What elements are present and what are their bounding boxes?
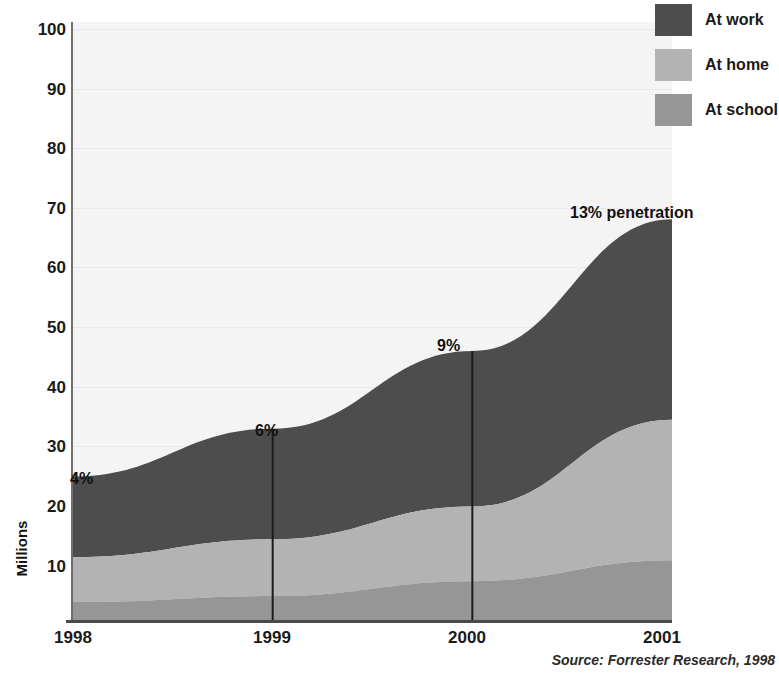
y-tick-100: 100 bbox=[14, 21, 66, 38]
y-tick-70: 70 bbox=[14, 200, 66, 217]
y-tick-30: 30 bbox=[14, 438, 66, 455]
legend-swatch-at-school bbox=[655, 94, 692, 126]
annotation-1999: 6% bbox=[255, 422, 278, 440]
annotation-2000: 9% bbox=[437, 337, 460, 355]
legend-label-at-work: At work bbox=[705, 11, 764, 29]
legend-swatch-at-home bbox=[655, 49, 692, 81]
y-tick-40: 40 bbox=[14, 379, 66, 396]
stacked-area-plot bbox=[73, 22, 672, 620]
x-axis-line bbox=[66, 620, 672, 623]
legend: At work At home At school bbox=[655, 4, 779, 139]
y-axis-tick-labels: 100 90 80 70 60 50 40 30 20 10 bbox=[0, 0, 66, 675]
y-tick-60: 60 bbox=[14, 259, 66, 276]
y-tick-90: 90 bbox=[14, 81, 66, 98]
x-tick-2001: 2001 bbox=[607, 628, 717, 648]
annotation-2001: 13% penetration bbox=[570, 204, 694, 222]
legend-item-at-work: At work bbox=[655, 4, 779, 44]
y-axis-line bbox=[71, 22, 73, 620]
x-tick-1999: 1999 bbox=[217, 628, 327, 648]
annotation-1998: 4% bbox=[70, 470, 93, 488]
y-axis-title: Millions bbox=[13, 509, 30, 589]
y-tick-50: 50 bbox=[14, 319, 66, 336]
legend-item-at-home: At home bbox=[655, 49, 779, 89]
y-tick-80: 80 bbox=[14, 140, 66, 157]
legend-swatch-at-work bbox=[655, 4, 692, 36]
legend-label-at-home: At home bbox=[705, 56, 769, 74]
x-tick-1998: 1998 bbox=[18, 628, 128, 648]
source-note: Source: Forrester Research, 1998 bbox=[552, 652, 775, 668]
legend-item-at-school: At school bbox=[655, 94, 779, 134]
x-tick-2000: 2000 bbox=[412, 628, 522, 648]
area-chart: 100 90 80 70 60 50 40 30 20 10 Millions bbox=[0, 0, 779, 675]
legend-label-at-school: At school bbox=[705, 101, 778, 119]
plot-area bbox=[73, 22, 672, 620]
